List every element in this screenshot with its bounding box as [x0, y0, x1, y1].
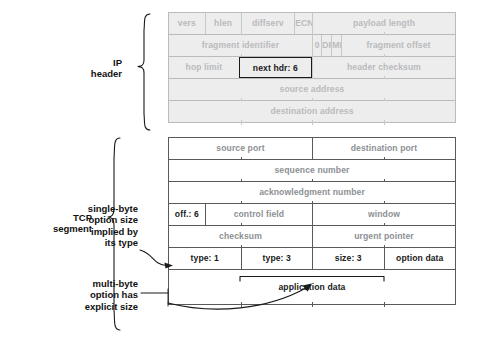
ip-row: destination address [168, 101, 456, 123]
figure-canvas: vershlendiffservECNpayload lengthfragmen… [0, 0, 481, 344]
ip-header-table: vershlendiffservECNpayload lengthfragmen… [168, 12, 456, 123]
ip-field-hlen: hlen [205, 13, 241, 34]
tcp-row: checksumurgent pointer [168, 226, 456, 248]
brace-ip-header [138, 14, 150, 130]
tcp-field-control-field: control field [205, 204, 312, 225]
ip-field-destination-address: destination address [169, 101, 455, 122]
ip-row: source address [168, 79, 456, 101]
tcp-field-option-data: option data [384, 248, 456, 269]
ip-field-diffserv: diffserv [241, 13, 295, 34]
tcp-field-off-6: off.: 6 [169, 204, 205, 225]
annotation-multi-byte-option: multi-byteoption hasexplicit size [60, 278, 138, 312]
tcp-field-window: window [312, 204, 455, 225]
ip-field-fragment-offset: fragment offset [341, 35, 455, 56]
tcp-row: application data [168, 270, 456, 305]
tcp-field-type-1: type: 1 [169, 248, 241, 269]
ip-row: hop limitnext hdr: 6header checksum [168, 57, 456, 79]
ip-field-header-checksum: header checksum [312, 57, 455, 78]
tcp-row: source portdestination port [168, 137, 456, 160]
tcp-segment-table: source portdestination portsequence numb… [168, 137, 456, 305]
ip-field-0: 0 [312, 35, 321, 56]
ip-field-hop-limit: hop limit [169, 57, 239, 78]
tcp-field-urgent-pointer: urgent pointer [312, 226, 455, 247]
tcp-field-size-3: size: 3 [312, 248, 384, 269]
tcp-field-sequence-number: sequence number [169, 160, 455, 181]
ip-field-ecn: ECN [294, 13, 312, 34]
tcp-row: type: 1type: 3size: 3option data [168, 248, 456, 270]
label-ip-header: IPheader [40, 57, 122, 79]
tcp-field-checksum: checksum [169, 226, 312, 247]
tcp-field-source-port: source port [169, 138, 312, 159]
tcp-field-destination-port: destination port [312, 138, 455, 159]
ip-field-fragment-identifier: fragment identifier [169, 35, 312, 56]
tcp-row: off.: 6control fieldwindow [168, 204, 456, 226]
ip-field-mf: MF [331, 35, 341, 56]
ip-row: vershlendiffservECNpayload length [168, 12, 456, 35]
tcp-field-acknowledgment-number: acknowledgment number [169, 182, 455, 203]
ip-field-next-hdr-6: next hdr: 6 [239, 57, 312, 78]
ip-field-df: DF [321, 35, 331, 56]
ip-row: fragment identifier0DFMFfragment offset [168, 35, 456, 57]
ip-field-vers: vers [169, 13, 205, 34]
ip-field-source-address: source address [169, 79, 455, 100]
leader-single-byte [140, 250, 166, 266]
tcp-field-application-data: application data [169, 270, 455, 304]
annotation-single-byte-option: single-byteoption sizeimplied byits type [60, 203, 138, 249]
tcp-row: acknowledgment number [168, 182, 456, 204]
tcp-row: sequence number [168, 160, 456, 182]
ip-field-payload-length: payload length [312, 13, 455, 34]
tcp-field-type-3: type: 3 [241, 248, 313, 269]
